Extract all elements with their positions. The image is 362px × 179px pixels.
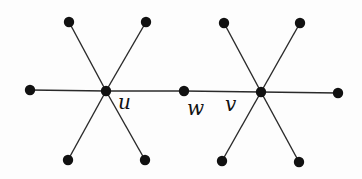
vertex-u4	[63, 155, 73, 165]
vertex-label-w: w	[187, 98, 204, 118]
edge-u-u2	[106, 22, 146, 91]
vertex-v3	[333, 88, 343, 98]
vertex-label-v: v	[225, 94, 236, 114]
graph-diagram: u w v	[0, 0, 362, 179]
edge-u-u4	[68, 91, 106, 160]
edge-v-v3	[261, 92, 338, 93]
vertex-u1	[64, 17, 74, 27]
graph-canvas	[0, 0, 362, 179]
edge-u-u3	[30, 90, 106, 91]
vertex-v4	[217, 156, 227, 166]
vertex-u5	[140, 155, 150, 165]
edge-v-v1	[224, 23, 261, 92]
vertex-v1	[219, 18, 229, 28]
edge-u-u1	[69, 22, 106, 91]
vertex-v2	[295, 18, 305, 28]
vertex-w	[179, 86, 189, 96]
edge-v-v5	[261, 92, 299, 162]
vertex-label-u: u	[118, 92, 131, 112]
edge-w-v	[184, 91, 261, 92]
vertex-u2	[141, 17, 151, 27]
vertex-u3	[25, 85, 35, 95]
vertex-v5	[294, 157, 304, 167]
vertex-u	[101, 86, 111, 96]
vertex-v	[256, 87, 266, 97]
edge-v-v2	[261, 23, 300, 92]
